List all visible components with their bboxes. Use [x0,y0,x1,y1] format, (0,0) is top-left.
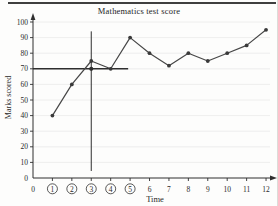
y-tick-label: 30 [21,127,29,136]
x-axis-arrow [270,176,277,181]
y-tick-label: 10 [21,158,29,167]
intersection-point [89,67,93,71]
x-tick-label: 11 [243,185,250,194]
x-tick-label: 5 [128,185,132,194]
x-tick-label: 1 [51,185,55,194]
x-tick-label: 0 [31,185,35,194]
y-tick-label: 80 [21,49,29,58]
data-point-marker [128,36,132,40]
x-tick-label: 2 [70,185,74,194]
x-tick-label: 10 [223,185,231,194]
y-tick-label: 90 [21,33,29,42]
x-axis-label: Time [40,194,270,204]
x-tick-label: 4 [109,185,113,194]
data-point-marker [148,51,152,55]
line-chart-canvas: 01020304050607080901000123456789101112 [0,0,278,206]
y-tick-label: 100 [17,18,29,27]
y-tick-label: 50 [21,96,29,105]
data-point-marker [245,44,249,48]
data-point-marker [70,83,74,87]
x-tick-label: 6 [148,185,152,194]
score-line [52,30,266,116]
y-tick-label: 60 [21,80,29,89]
y-tick-label: 40 [21,111,29,120]
x-tick-label: 12 [262,185,270,194]
data-point-marker [51,114,55,118]
y-tick-label: 0 [24,174,28,183]
data-point-marker [109,67,113,71]
data-point-marker [89,59,93,63]
data-point-marker [264,28,268,32]
data-point-marker [167,64,171,68]
data-point-marker [186,51,190,55]
y-tick-label: 70 [21,64,29,73]
data-point-marker [206,59,210,63]
data-point-marker [225,51,229,55]
x-tick-label: 8 [186,185,190,194]
x-tick-label: 9 [206,185,210,194]
y-axis-arrow [31,13,36,20]
x-tick-label: 7 [167,185,171,194]
figure: Mathematics test score Marks scored 0102… [0,0,278,206]
x-tick-label: 3 [89,185,93,194]
y-tick-label: 20 [21,142,29,151]
